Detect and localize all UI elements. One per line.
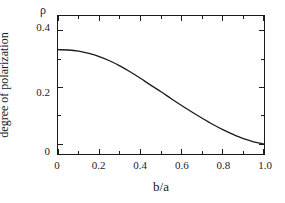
x-tick-label-0.8: 0.8 xyxy=(217,160,231,171)
y-tick-label-0: 0 xyxy=(14,146,50,157)
x-axis-title: b/a xyxy=(153,180,169,194)
x-tick-label-0.6: 0.6 xyxy=(175,160,189,171)
x-tick-label-0: 0 xyxy=(54,160,60,171)
x-tick-label-0.4: 0.4 xyxy=(133,160,147,171)
plot-area xyxy=(57,15,265,155)
y-tick-label-0.2: 0.2 xyxy=(14,87,50,98)
x-tick-label-0.2: 0.2 xyxy=(92,160,106,171)
rho-symbol-label: ρ xyxy=(40,4,46,16)
x-tick-label-1.0: 1.0 xyxy=(258,160,272,171)
axis-ticks xyxy=(58,16,264,154)
y-axis-title: degree of polarization xyxy=(0,32,11,137)
y-tick-label-0.4: 0.4 xyxy=(14,22,50,33)
plot-canvas xyxy=(58,16,264,154)
data-series-line xyxy=(58,50,264,144)
figure: ρ degree of polarization 0.4 0.2 0 0 0.2… xyxy=(0,0,285,203)
